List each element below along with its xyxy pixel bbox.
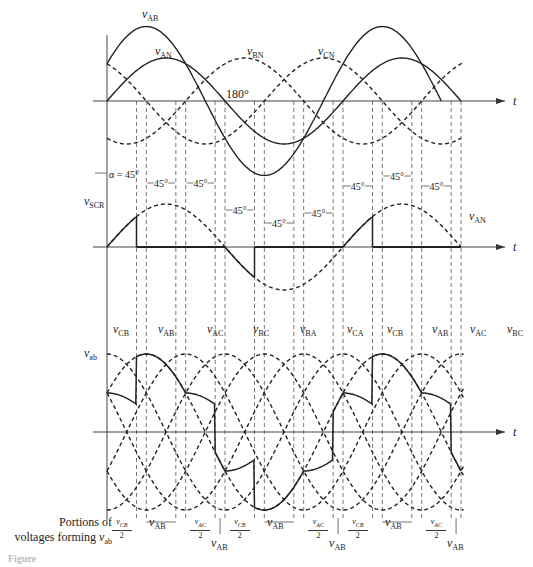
waveform-figure: 45°45°45°45°45°45°45°45° <box>0 0 533 567</box>
label-vAB: vAB <box>142 8 158 25</box>
interval-label: 45° <box>193 178 207 189</box>
portion-half-vCB: vCB2 <box>112 517 132 540</box>
portion-half-vCB: vCB2 <box>230 517 250 540</box>
label-180deg: 180° <box>226 88 249 100</box>
curve-label-vAB: vAB <box>158 323 174 340</box>
portion-half-vCB: vCB2 <box>348 517 368 540</box>
interval-label: 45° <box>272 218 286 229</box>
curve-label-vBC: vBC <box>253 323 269 340</box>
curve-label-vAB: vAB <box>432 323 448 340</box>
curve-vSCR <box>343 217 372 247</box>
label-alpha: α = 45° <box>109 169 139 181</box>
curve-label-vCB: vCB <box>387 323 403 340</box>
label-vCN: vCN <box>318 45 334 62</box>
caption-portions: Portions of voltages forming vab <box>0 515 112 549</box>
axis-t-bottom: t <box>513 426 516 438</box>
label-vab: vab <box>84 347 97 364</box>
portion-full-vAB: vAB <box>385 516 401 533</box>
interval-label: 45° <box>154 178 168 189</box>
portion-full-vAB: vAB <box>149 516 165 533</box>
label-vAN-top: vAN <box>155 45 172 62</box>
curve-label-vBA: vBA <box>300 323 316 340</box>
curve-label-vCA: vCA <box>347 323 363 340</box>
interval-label: 45° <box>390 171 404 182</box>
portion-arrow-vAB: vAB <box>211 537 227 554</box>
curve-label-vBC: vBC <box>507 323 523 340</box>
curve-vSCR <box>107 217 136 247</box>
label-vAN-scr: vAN <box>469 210 486 227</box>
curve-label-vCB: vCB <box>113 323 129 340</box>
portion-full-vAB: vAB <box>267 516 283 533</box>
curve-label-vAC: vAC <box>470 323 486 340</box>
interval-label: 45° <box>311 208 325 219</box>
interval-label: 45° <box>351 181 365 192</box>
curve-vSCR <box>225 247 254 277</box>
axis-t-top: t <box>513 95 516 107</box>
label-vSCR: vSCR <box>84 195 104 212</box>
axis-scr-arrow <box>496 244 505 250</box>
portion-half-vAC: vAC2 <box>426 517 446 540</box>
interval-label: 45° <box>233 205 247 216</box>
portion-half-vAC: vAC2 <box>190 517 210 540</box>
label-vBN: vBN <box>247 45 263 62</box>
portion-half-vAC: vAC2 <box>308 517 328 540</box>
axis-t-scr: t <box>513 241 516 253</box>
portion-arrow-vAB: vAB <box>447 537 463 554</box>
figure-caption: Figure <box>8 553 36 565</box>
axis-top-arrow <box>496 98 505 104</box>
curve-label-vAC: vAC <box>207 323 223 340</box>
portion-arrow-vAB: vAB <box>329 537 345 554</box>
interval-label: 45° <box>429 181 443 192</box>
axis-bottom-arrow <box>496 429 505 435</box>
